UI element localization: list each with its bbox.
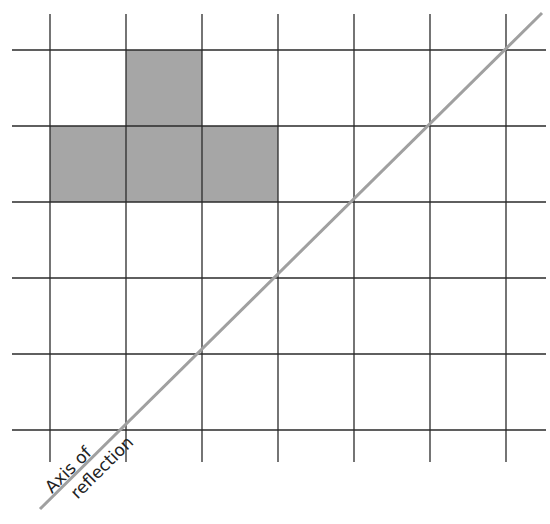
reflection-diagram: Axis of reflection: [0, 0, 550, 524]
grid-lines: [12, 14, 546, 462]
diagram-canvas: Axis of reflection: [0, 0, 550, 524]
shaded-cell: [50, 126, 126, 202]
shaded-cell: [126, 126, 202, 202]
axis-of-reflection-line: [40, 13, 542, 509]
axis-label: Axis of reflection: [41, 416, 137, 512]
shaded-cell: [202, 126, 278, 202]
shaded-cell: [126, 50, 202, 126]
